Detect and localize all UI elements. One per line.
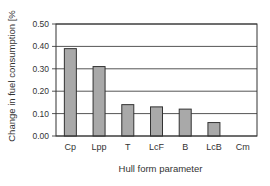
x-tick-label: Cp: [65, 142, 77, 152]
bars: [64, 49, 220, 136]
bar-lcb: [208, 123, 220, 136]
x-tick-label: LcB: [206, 142, 222, 152]
x-tick-label: Cm: [236, 142, 250, 152]
x-axis-ticks: CpLppTLcFBLcBCm: [65, 142, 250, 152]
y-tick-label: 0.10: [32, 109, 49, 119]
x-tick-label: B: [182, 142, 188, 152]
bar-chart: 0.000.100.200.300.400.50 CpLppTLcFBLcBCm…: [0, 0, 270, 186]
y-tick-label: 0.00: [32, 131, 49, 141]
y-tick-label: 0.30: [32, 64, 49, 74]
x-axis-label: Hull form parameter: [119, 163, 203, 174]
y-axis-ticks: 0.000.100.200.300.400.50: [32, 19, 49, 141]
bar-b: [179, 109, 191, 136]
y-axis-label: Change in fuel consumption [%: [6, 10, 17, 142]
y-tick-label: 0.50: [32, 19, 49, 29]
x-tick-label: LcF: [149, 142, 165, 152]
bar-cp: [64, 49, 76, 136]
y-tick-label: 0.20: [32, 86, 49, 96]
bar-lcf: [151, 107, 163, 136]
bar-lpp: [93, 67, 105, 136]
y-tick-label: 0.40: [32, 41, 49, 51]
x-tick-label: T: [125, 142, 131, 152]
x-tick-label: Lpp: [92, 142, 107, 152]
bar-t: [122, 105, 134, 136]
